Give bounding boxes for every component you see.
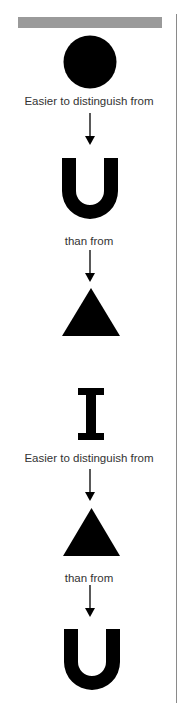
arrow-down-icon <box>84 113 96 146</box>
u-shape-icon <box>64 629 120 691</box>
label-than-from: than from <box>0 572 178 584</box>
label-than-from: than from <box>0 235 178 247</box>
label-easier: Easier to distinguish from <box>0 95 178 107</box>
triangle-icon <box>62 288 120 336</box>
i-beam-icon <box>78 388 104 440</box>
arrow-down-icon <box>84 250 96 283</box>
header-bar <box>18 17 162 28</box>
circle-icon <box>63 35 117 89</box>
arrow-down-icon <box>84 469 96 502</box>
label-easier: Easier to distinguish from <box>0 452 178 464</box>
triangle-icon <box>63 508 120 556</box>
u-shape-icon <box>62 158 118 220</box>
column-divider <box>176 14 177 703</box>
arrow-down-icon <box>84 585 96 618</box>
